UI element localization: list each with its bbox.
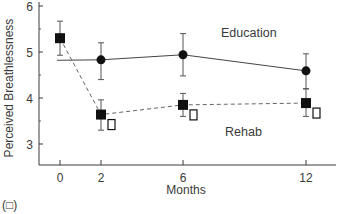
breathlessness-chart: 345602612MonthsPerceived Breathlessness …: [0, 0, 339, 214]
labels-layer: EducationRehab: [108, 26, 320, 139]
panel-label: (□): [2, 198, 17, 212]
y-axis-title: Perceived Breathlessness: [2, 19, 16, 158]
x-tick-label: 0: [57, 171, 64, 185]
square-marker: [55, 33, 65, 43]
square-marker: [96, 110, 106, 120]
x-tick-label: 12: [299, 171, 313, 185]
x-tick-label: 2: [98, 171, 105, 185]
series-education: [57, 34, 311, 89]
square-marker: [301, 98, 311, 108]
series-label-rehab: Rehab: [225, 125, 262, 139]
y-tick-label: 6: [26, 0, 33, 14]
series-label-education: Education: [221, 26, 277, 40]
circle-marker: [97, 55, 106, 64]
y-tick-label: 3: [26, 138, 33, 152]
circle-marker: [302, 66, 311, 75]
square-marker: [178, 100, 188, 110]
open-square-annotation: [108, 120, 115, 130]
open-square-annotation: [313, 108, 320, 118]
x-axis-title: Months: [166, 183, 205, 197]
axes: 345602612MonthsPerceived Breathlessness: [2, 0, 336, 197]
circle-marker: [179, 50, 188, 59]
y-tick-label: 5: [26, 46, 33, 60]
open-square-annotation: [190, 110, 197, 120]
y-tick-label: 4: [26, 92, 33, 106]
